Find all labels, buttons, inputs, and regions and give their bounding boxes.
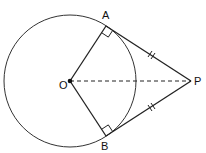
label-B: B — [101, 140, 108, 152]
label-A: A — [102, 9, 110, 21]
tangent-BP — [106, 81, 191, 136]
label-O: O — [59, 79, 68, 91]
label-P: P — [194, 75, 201, 87]
center-point-O — [68, 79, 73, 84]
radius-OB — [70, 81, 106, 136]
right-angle-marker-A — [102, 30, 113, 37]
geometry-diagram: A B O P — [0, 0, 206, 153]
tangent-AP — [106, 26, 191, 81]
right-angle-marker-B — [102, 125, 113, 132]
radius-OA — [70, 26, 106, 81]
